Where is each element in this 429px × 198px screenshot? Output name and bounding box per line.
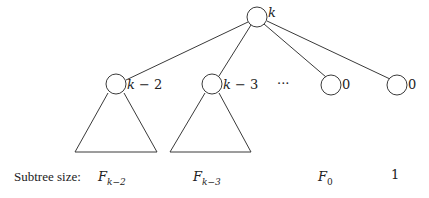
child-node-0a [321, 75, 341, 95]
child-label-0b: 0 [408, 77, 416, 92]
child-node-k-3 [202, 74, 222, 94]
edge-root-to-0b [267, 21, 390, 79]
child-label-k-2: k − 2 [127, 77, 162, 92]
root-label: k [268, 5, 276, 20]
size-label-k-3: Fk−3 [192, 169, 221, 187]
size-label-k-2: Fk−2 [97, 169, 126, 187]
edge-root-to-k-2 [126, 22, 248, 80]
subtree-k-3 [170, 93, 251, 152]
child-node-k-2 [106, 74, 126, 94]
ellipsis: ··· [277, 76, 289, 91]
child-label-k-3: k − 3 [223, 77, 258, 92]
root-node [247, 7, 267, 27]
size-label-0b: 1 [391, 167, 399, 182]
child-label-0a: 0 [342, 77, 350, 92]
size-label-0a: F0 [317, 169, 333, 187]
subtree-k-2 [75, 93, 157, 152]
tree-diagram: k k − 2 k − 3 ··· 0 0 Subtree size: Fk−2… [0, 0, 429, 198]
subtree-size-caption: Subtree size: [14, 169, 81, 184]
edge-root-to-0a [264, 24, 326, 77]
edge-root-to-k-3 [219, 25, 251, 76]
child-node-0b [387, 75, 407, 95]
